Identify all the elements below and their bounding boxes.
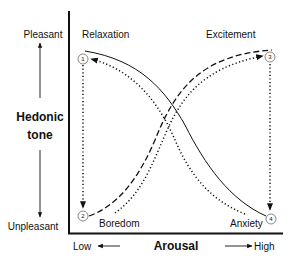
paratelic-curve xyxy=(89,50,272,216)
label-anxiety: Anxiety xyxy=(230,218,263,229)
label-tone: tone xyxy=(27,128,53,142)
state-marker-4: 4 xyxy=(266,214,276,224)
telic-curve xyxy=(85,51,266,216)
label-hedonic: Hedonic xyxy=(16,110,64,124)
state-marker-3: 3 xyxy=(265,52,275,62)
label-low: Low xyxy=(73,241,92,252)
transition-4-to-1 xyxy=(91,59,245,214)
label-arousal: Arousal xyxy=(154,239,199,253)
state-marker-2: 2 xyxy=(78,211,88,221)
transition-2-to-3 xyxy=(115,56,263,213)
label-pleasant: Pleasant xyxy=(24,29,63,40)
label-boredom: Boredom xyxy=(99,218,140,229)
label-high: High xyxy=(254,241,275,252)
label-unpleasant: Unpleasant xyxy=(8,221,59,232)
label-relaxation: Relaxation xyxy=(82,29,129,40)
label-excitement: Excitement xyxy=(206,29,256,40)
state-marker-1: 1 xyxy=(78,54,88,64)
reversal-diagram: 1 2 3 4 Relaxation Boredom Excitement An… xyxy=(0,0,292,261)
